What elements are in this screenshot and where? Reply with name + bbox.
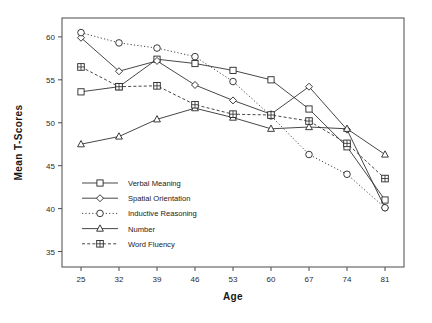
legend-label: Word Fluency — [128, 240, 175, 249]
y-axis-title: Mean T-Scores — [13, 105, 24, 181]
y-axis-tick-label: 40 — [46, 205, 55, 214]
x-axis-tick-label: 46 — [191, 275, 200, 284]
marker-circle — [97, 210, 104, 217]
marker-square — [306, 106, 312, 112]
y-axis-tick-label: 55 — [46, 76, 55, 85]
y-axis-tick-label: 35 — [46, 248, 55, 257]
line-chart-canvas: 354045505560253239465360677481AgeMean T-… — [0, 0, 432, 323]
marker-square — [192, 60, 198, 66]
series-line — [81, 38, 385, 208]
legend-item[interactable]: Spatial Orientation — [82, 194, 190, 203]
marker-triangle — [382, 151, 389, 157]
legend-label: Verbal Meaning — [128, 179, 181, 188]
x-axis-tick-label: 25 — [77, 275, 86, 284]
x-axis-tick-label: 67 — [305, 275, 314, 284]
series-spatial-orientation — [78, 34, 389, 211]
marker-square — [78, 89, 84, 95]
y-axis-tick-label: 60 — [46, 33, 55, 42]
plot-frame — [62, 18, 404, 267]
marker-circle — [116, 40, 123, 47]
marker-square — [268, 77, 274, 83]
x-axis-tick-label: 39 — [153, 275, 162, 284]
x-axis-title: Age — [223, 291, 243, 302]
marker-diamond — [230, 97, 237, 104]
marker-diamond — [97, 195, 104, 202]
legend: Verbal MeaningSpatial OrientationInducti… — [82, 179, 197, 249]
marker-diamond — [192, 81, 199, 88]
x-axis-tick-label: 74 — [343, 275, 352, 284]
x-axis-tick-label: 32 — [115, 275, 124, 284]
marker-circle — [154, 45, 161, 52]
legend-item[interactable]: Verbal Meaning — [82, 179, 181, 188]
legend-item[interactable]: Word Fluency — [82, 240, 175, 249]
marker-circle — [78, 29, 85, 36]
marker-circle — [192, 53, 199, 60]
x-axis-tick-label: 81 — [381, 275, 390, 284]
legend-item[interactable]: Number — [82, 225, 155, 234]
legend-label: Spatial Orientation — [128, 194, 190, 203]
marker-square — [382, 197, 388, 203]
legend-item[interactable]: Inductive Reasoning — [82, 209, 197, 218]
marker-triangle — [116, 133, 123, 139]
marker-square — [97, 180, 103, 186]
legend-label: Number — [128, 225, 155, 234]
y-axis-tick-label: 45 — [46, 162, 55, 171]
legend-label: Inductive Reasoning — [128, 209, 197, 218]
x-axis-tick-label: 53 — [229, 275, 238, 284]
chart-figure: 354045505560253239465360677481AgeMean T-… — [0, 0, 432, 323]
marker-circle — [230, 78, 237, 85]
marker-circle — [344, 171, 351, 178]
marker-circle — [306, 151, 313, 158]
marker-square — [230, 67, 236, 73]
marker-triangle — [97, 225, 104, 231]
marker-circle — [382, 204, 389, 211]
y-axis-tick-label: 50 — [46, 119, 55, 128]
x-axis-tick-label: 60 — [267, 275, 276, 284]
